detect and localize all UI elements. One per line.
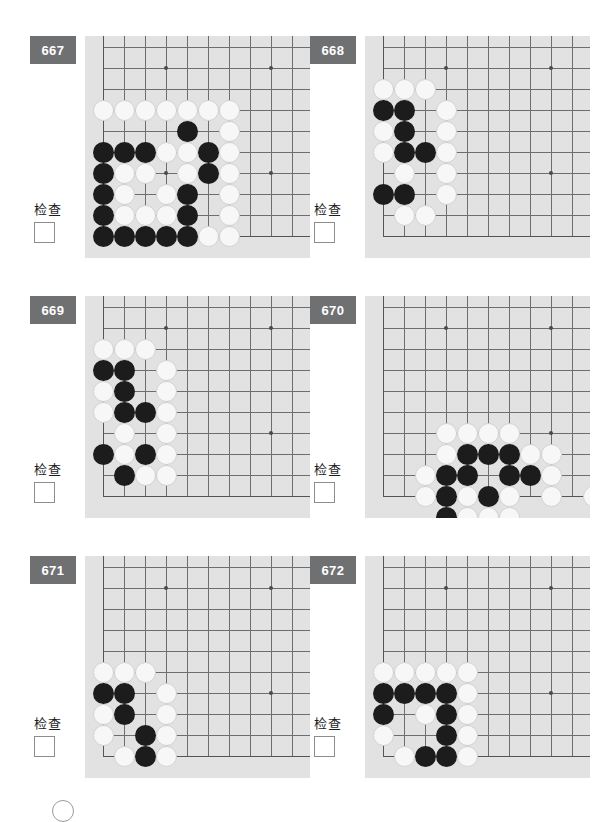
black-stone[interactable] xyxy=(177,121,198,142)
white-stone[interactable] xyxy=(135,465,156,486)
white-stone[interactable] xyxy=(499,486,520,507)
white-stone[interactable] xyxy=(394,662,415,683)
white-stone[interactable] xyxy=(114,205,135,226)
white-stone[interactable] xyxy=(457,725,478,746)
white-stone[interactable] xyxy=(156,683,177,704)
white-stone[interactable] xyxy=(415,465,436,486)
black-stone[interactable] xyxy=(457,465,478,486)
white-stone[interactable] xyxy=(373,79,394,100)
black-stone[interactable] xyxy=(373,100,394,121)
white-stone[interactable] xyxy=(114,423,135,444)
white-stone[interactable] xyxy=(156,360,177,381)
black-stone[interactable] xyxy=(177,226,198,247)
white-stone[interactable] xyxy=(177,163,198,184)
white-stone[interactable] xyxy=(394,79,415,100)
white-stone[interactable] xyxy=(436,163,457,184)
white-stone[interactable] xyxy=(156,205,177,226)
white-stone[interactable] xyxy=(415,662,436,683)
white-stone[interactable] xyxy=(156,444,177,465)
white-stone[interactable] xyxy=(520,444,541,465)
white-stone[interactable] xyxy=(156,725,177,746)
white-stone[interactable] xyxy=(478,507,499,519)
black-stone[interactable] xyxy=(373,184,394,205)
black-stone[interactable] xyxy=(114,704,135,725)
white-stone[interactable] xyxy=(436,100,457,121)
black-stone[interactable] xyxy=(135,142,156,163)
white-stone[interactable] xyxy=(135,100,156,121)
white-stone[interactable] xyxy=(156,381,177,402)
white-stone[interactable] xyxy=(93,339,114,360)
black-stone[interactable] xyxy=(114,360,135,381)
white-stone[interactable] xyxy=(373,142,394,163)
black-stone[interactable] xyxy=(415,683,436,704)
white-stone[interactable] xyxy=(219,205,240,226)
black-stone[interactable] xyxy=(114,402,135,423)
white-stone[interactable] xyxy=(457,746,478,767)
white-stone[interactable] xyxy=(373,121,394,142)
white-stone[interactable] xyxy=(394,746,415,767)
white-stone[interactable] xyxy=(373,725,394,746)
white-stone[interactable] xyxy=(135,662,156,683)
black-stone[interactable] xyxy=(478,486,499,507)
go-board[interactable] xyxy=(365,296,590,518)
black-stone[interactable] xyxy=(93,184,114,205)
black-stone[interactable] xyxy=(198,163,219,184)
black-stone[interactable] xyxy=(436,465,457,486)
white-stone[interactable] xyxy=(156,184,177,205)
go-board[interactable] xyxy=(85,556,310,778)
black-stone[interactable] xyxy=(499,444,520,465)
black-stone[interactable] xyxy=(93,444,114,465)
white-stone[interactable] xyxy=(415,486,436,507)
white-stone[interactable] xyxy=(394,205,415,226)
white-stone[interactable] xyxy=(436,423,457,444)
black-stone[interactable] xyxy=(135,444,156,465)
white-stone[interactable] xyxy=(93,381,114,402)
check-checkbox[interactable] xyxy=(314,736,335,757)
black-stone[interactable] xyxy=(114,683,135,704)
black-stone[interactable] xyxy=(394,142,415,163)
white-stone[interactable] xyxy=(219,226,240,247)
white-stone[interactable] xyxy=(156,423,177,444)
white-stone[interactable] xyxy=(499,423,520,444)
white-stone[interactable] xyxy=(415,79,436,100)
black-stone[interactable] xyxy=(114,226,135,247)
go-board[interactable] xyxy=(365,556,590,778)
black-stone[interactable] xyxy=(114,142,135,163)
check-checkbox[interactable] xyxy=(314,482,335,503)
white-stone[interactable] xyxy=(156,100,177,121)
go-board[interactable] xyxy=(85,296,310,518)
white-stone[interactable] xyxy=(219,163,240,184)
black-stone[interactable] xyxy=(478,444,499,465)
white-stone[interactable] xyxy=(177,142,198,163)
white-stone[interactable] xyxy=(499,507,520,519)
white-stone[interactable] xyxy=(436,662,457,683)
black-stone[interactable] xyxy=(394,121,415,142)
white-stone[interactable] xyxy=(93,725,114,746)
black-stone[interactable] xyxy=(436,486,457,507)
white-stone[interactable] xyxy=(373,662,394,683)
black-stone[interactable] xyxy=(373,683,394,704)
black-stone[interactable] xyxy=(114,381,135,402)
white-stone[interactable] xyxy=(114,746,135,767)
black-stone[interactable] xyxy=(135,226,156,247)
white-stone[interactable] xyxy=(114,184,135,205)
white-stone[interactable] xyxy=(135,205,156,226)
check-checkbox[interactable] xyxy=(34,222,55,243)
white-stone[interactable] xyxy=(457,662,478,683)
white-stone[interactable] xyxy=(415,205,436,226)
black-stone[interactable] xyxy=(156,226,177,247)
black-stone[interactable] xyxy=(436,704,457,725)
white-stone[interactable] xyxy=(156,465,177,486)
white-stone[interactable] xyxy=(219,142,240,163)
white-stone[interactable] xyxy=(93,704,114,725)
black-stone[interactable] xyxy=(457,444,478,465)
black-stone[interactable] xyxy=(93,163,114,184)
white-stone[interactable] xyxy=(219,184,240,205)
white-stone[interactable] xyxy=(457,704,478,725)
white-stone[interactable] xyxy=(457,486,478,507)
black-stone[interactable] xyxy=(135,402,156,423)
black-stone[interactable] xyxy=(135,746,156,767)
white-stone[interactable] xyxy=(114,444,135,465)
check-checkbox[interactable] xyxy=(34,736,55,757)
white-stone[interactable] xyxy=(135,163,156,184)
